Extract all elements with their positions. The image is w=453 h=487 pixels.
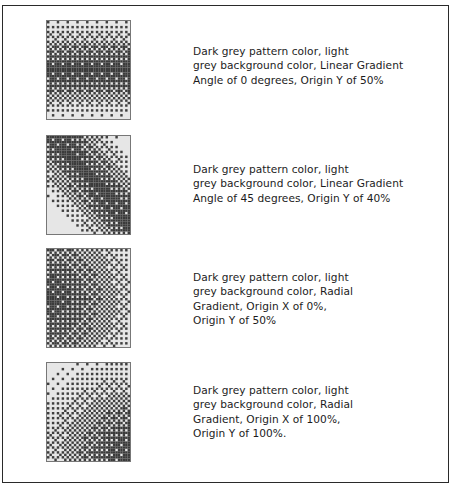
swatch-dither-dot: [81, 104, 83, 106]
swatch-dither-dot: [106, 165, 108, 167]
swatch-dither-dot: [115, 219, 117, 221]
swatch-dither-dot: [125, 342, 127, 344]
swatch-dither-dot: [128, 451, 130, 453]
swatch-dither-dot: [76, 168, 78, 170]
swatch-dither-dot: [98, 43, 100, 45]
swatch-dither-dot: [96, 368, 98, 370]
swatch-dither-dot: [57, 303, 59, 305]
swatch-dither-dot: [101, 175, 103, 177]
swatch-dither-dot: [118, 261, 120, 263]
swatch-dither-dot: [120, 109, 122, 111]
swatch-dither-dot: [86, 417, 88, 419]
swatch-dither-dot: [110, 85, 112, 87]
swatch-dither-dot: [103, 286, 105, 288]
swatch-dither-dot: [103, 197, 105, 199]
swatch-dither-dot: [113, 77, 115, 79]
swatch-dither-dot: [62, 412, 64, 414]
swatch-dither-dot: [101, 313, 103, 315]
swatch-dither-dot: [79, 173, 81, 175]
swatch-dither-dot: [81, 36, 83, 38]
swatch-dither-dot: [49, 327, 51, 329]
swatch-dither-dot: [52, 427, 54, 429]
swatch-dither-dot: [120, 165, 122, 167]
swatch-dither-dot: [74, 173, 76, 175]
swatch-dither-dot: [120, 77, 122, 79]
swatch-dither-dot: [79, 288, 81, 290]
swatch-dither-dot: [74, 278, 76, 280]
swatch-dither-dot: [98, 168, 100, 170]
swatch-dither-dot: [113, 419, 115, 421]
swatch-dither-dot: [64, 269, 66, 271]
swatch-dither-dot: [49, 345, 51, 347]
swatch-dither-dot: [96, 451, 98, 453]
swatch-dither-dot: [93, 43, 95, 45]
swatch-dither-dot: [62, 318, 64, 320]
swatch-dither-dot: [125, 254, 127, 256]
swatch-dither-dot: [118, 229, 120, 231]
swatch-dither-dot: [67, 72, 69, 74]
swatch-dither-dot: [89, 327, 91, 329]
swatch-dither-dot: [128, 424, 130, 426]
swatch-dither-dot: [79, 451, 81, 453]
swatch-dither-dot: [106, 60, 108, 62]
swatch-dither-dot: [96, 313, 98, 315]
swatch-dither-dot: [76, 85, 78, 87]
swatch-dither-dot: [69, 444, 71, 446]
swatch-dither-dot: [64, 77, 66, 79]
swatch-dither-dot: [123, 224, 125, 226]
swatch-dither-dot: [113, 72, 115, 74]
swatch-dither-dot: [96, 254, 98, 256]
swatch-dither-dot: [89, 405, 91, 407]
swatch-dither-dot: [106, 283, 108, 285]
swatch-dither-dot: [74, 305, 76, 307]
swatch-dither-dot: [120, 437, 122, 439]
swatch-dither-dot: [108, 291, 110, 293]
swatch-dither-dot: [69, 92, 71, 94]
swatch-dither-dot: [110, 185, 112, 187]
swatch-dither-dot: [103, 210, 105, 212]
swatch-dither-dot: [54, 183, 56, 185]
swatch-dither-dot: [86, 90, 88, 92]
swatch-dither-dot: [76, 214, 78, 216]
swatch-dither-dot: [79, 269, 81, 271]
swatch-dither-dot: [113, 63, 115, 65]
swatch-dither-dot: [120, 412, 122, 414]
swatch-dither-dot: [115, 207, 117, 209]
swatch-dither-dot: [79, 50, 81, 52]
swatch-dither-dot: [79, 148, 81, 150]
swatch-dither-dot: [113, 424, 115, 426]
swatch-dither-dot: [106, 456, 108, 458]
swatch-dither-dot: [62, 293, 64, 295]
swatch-dither-dot: [49, 249, 51, 251]
swatch-dither-dot: [79, 75, 81, 77]
swatch-dither-dot: [59, 141, 61, 143]
swatch-dither-dot: [74, 77, 76, 79]
swatch-dither-dot: [108, 87, 110, 89]
swatch-dither-dot: [123, 432, 125, 434]
swatch-dither-dot: [74, 156, 76, 158]
swatch-dither-dot: [47, 274, 49, 276]
swatch-dither-dot: [57, 427, 59, 429]
swatch-dither-dot: [93, 310, 95, 312]
swatch-dither-dot: [76, 190, 78, 192]
swatch-dither-dot: [47, 55, 49, 57]
swatch-dither-dot: [108, 412, 110, 414]
swatch-dither-dot: [113, 200, 115, 202]
swatch-dither-dot: [89, 170, 91, 172]
swatch-dither-dot: [74, 325, 76, 327]
swatch-dither-dot: [101, 214, 103, 216]
swatch-dither-dot: [67, 318, 69, 320]
swatch-dither-dot: [96, 178, 98, 180]
swatch-dither-dot: [69, 82, 71, 84]
swatch-dither-dot: [91, 417, 93, 419]
swatch-dither-dot: [54, 143, 56, 145]
swatch-dither-dot: [69, 283, 71, 285]
swatch-dither-dot: [69, 53, 71, 55]
swatch-dither-dot: [128, 48, 130, 50]
swatch-dither-dot: [52, 296, 54, 298]
swatch-dither-dot: [59, 337, 61, 339]
swatch-dither-dot: [120, 190, 122, 192]
swatch-dither-dot: [84, 183, 86, 185]
swatch-dither-dot: [79, 276, 81, 278]
swatch-dither-dot: [76, 68, 78, 70]
